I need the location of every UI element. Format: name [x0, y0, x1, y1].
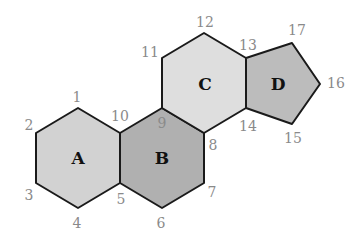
region-label-d: D — [271, 74, 286, 94]
vertex-label-17: 17 — [288, 22, 306, 38]
vertex-label-6: 6 — [157, 215, 166, 231]
region-label-c: C — [198, 74, 212, 94]
vertex-label-16: 16 — [327, 75, 345, 91]
vertex-label-5: 5 — [117, 191, 126, 207]
vertex-label-15: 15 — [284, 130, 302, 146]
vertex-label-3: 3 — [25, 187, 34, 203]
vertex-label-12: 12 — [196, 14, 214, 30]
vertex-label-13: 13 — [239, 37, 257, 53]
vertex-label-7: 7 — [208, 184, 217, 200]
vertex-label-11: 11 — [141, 44, 159, 60]
region-label-a: A — [70, 148, 85, 168]
vertex-label-10: 10 — [111, 108, 129, 124]
vertex-label-1: 1 — [73, 89, 82, 105]
vertex-label-2: 2 — [25, 117, 34, 133]
vertex-label-14: 14 — [239, 118, 257, 134]
region-label-b: B — [155, 148, 169, 168]
vertex-label-4: 4 — [73, 215, 82, 231]
vertex-label-8: 8 — [209, 137, 218, 153]
polygon-diagram: A B C D 1 2 3 4 5 6 7 8 9 10 11 12 13 14… — [0, 0, 363, 243]
vertex-label-9: 9 — [158, 115, 167, 131]
